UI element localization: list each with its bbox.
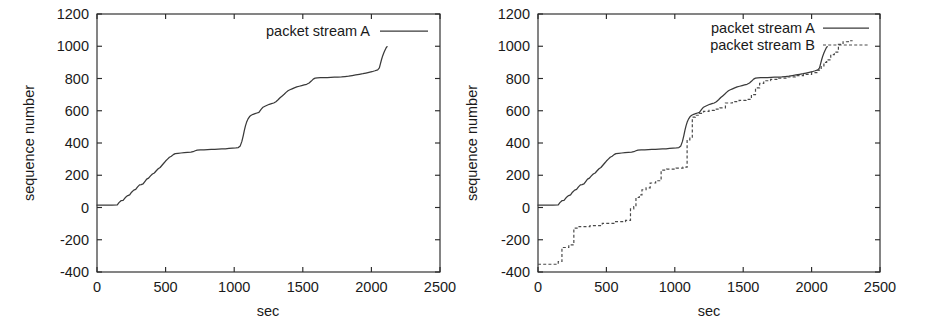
plot-frame-left <box>97 14 440 272</box>
y-tick-label: 400 <box>65 135 89 151</box>
x-tick-label: 1500 <box>287 279 319 295</box>
plot-border <box>97 14 440 272</box>
y-tick-label: 1000 <box>498 38 530 54</box>
y-tick-label: -400 <box>60 264 89 280</box>
y-tick-label: 200 <box>506 167 530 183</box>
y-tick-label: -200 <box>60 232 89 248</box>
y-tick-label: 800 <box>506 71 530 87</box>
figure-container: -400-200020040060080010001200 0500100015… <box>0 0 930 331</box>
y-tick-label: 200 <box>65 167 89 183</box>
series-line-packet-stream-a <box>97 47 387 206</box>
y-axis-title-right: sequence number <box>465 85 480 201</box>
x-axis-ticks-left: 05001000150020002500 <box>93 14 456 295</box>
x-tick-label: 2500 <box>864 279 896 295</box>
x-tick-label: 1500 <box>727 279 759 295</box>
chart-svg-right: -400-200020040060080010001200 0500100015… <box>465 0 930 331</box>
chart-panel-right: -400-200020040060080010001200 0500100015… <box>465 0 930 331</box>
x-tick-label: 2500 <box>424 279 456 295</box>
chart-panel-left: -400-200020040060080010001200 0500100015… <box>0 0 465 331</box>
y-tick-label: 1000 <box>57 38 89 54</box>
y-axis-title-left: sequence number <box>21 85 37 201</box>
chart-svg-left: -400-200020040060080010001200 0500100015… <box>0 0 465 331</box>
legend-right: packet stream A packet stream B <box>710 20 869 53</box>
x-tick-label: 500 <box>153 279 177 295</box>
x-tick-label: 0 <box>93 279 101 295</box>
y-tick-label: 0 <box>81 200 89 216</box>
plot-frame-right <box>538 14 880 272</box>
y-tick-label: 800 <box>65 71 89 87</box>
x-tick-label: 500 <box>594 279 618 295</box>
y-tick-label: 600 <box>65 103 89 119</box>
x-tick-label: 1000 <box>659 279 691 295</box>
legend-left: packet stream A <box>266 23 428 39</box>
plot-border <box>538 14 880 272</box>
x-axis-ticks-right: 05001000150020002500 <box>534 14 896 295</box>
x-axis-title-right: sec <box>698 303 721 319</box>
y-tick-label: -400 <box>501 264 530 280</box>
series-line-packet-stream-b <box>538 41 853 264</box>
y-tick-label: -200 <box>501 232 530 248</box>
y-axis-ticks-left: -400-200020040060080010001200 <box>57 6 440 280</box>
legend-label-packet-stream-b: packet stream B <box>710 37 815 53</box>
legend-label-packet-stream-a: packet stream A <box>266 23 370 39</box>
y-axis-ticks-right: -400-200020040060080010001200 <box>498 6 880 280</box>
x-tick-label: 0 <box>534 279 542 295</box>
x-tick-label: 1000 <box>218 279 250 295</box>
y-tick-label: 1200 <box>57 6 89 22</box>
x-tick-label: 2000 <box>795 279 827 295</box>
y-tick-label: 400 <box>506 135 530 151</box>
y-tick-label: 0 <box>522 200 530 216</box>
x-axis-title-left: sec <box>257 303 280 319</box>
y-tick-label: 1200 <box>498 6 530 22</box>
series-line-packet-stream-a <box>538 47 827 206</box>
x-tick-label: 2000 <box>355 279 387 295</box>
y-tick-label: 600 <box>506 103 530 119</box>
legend-label-packet-stream-a: packet stream A <box>711 20 815 36</box>
